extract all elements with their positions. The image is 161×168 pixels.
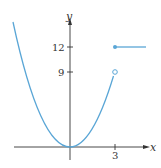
y-tick-label-9: 9 (58, 67, 64, 78)
x-tick-label-3: 3 (112, 150, 118, 161)
open-circle-marker (113, 70, 118, 75)
piecewise-function-graph: x y 3 9 12 (0, 0, 161, 168)
x-axis-label: x (150, 141, 157, 154)
closed-dot-marker (113, 45, 117, 49)
parabola-curve (13, 22, 114, 147)
chart-svg: x y 3 9 12 (0, 0, 161, 168)
y-axis-label: y (65, 10, 73, 23)
x-axis-arrow-icon (143, 145, 150, 149)
y-tick-label-12: 12 (52, 42, 65, 53)
